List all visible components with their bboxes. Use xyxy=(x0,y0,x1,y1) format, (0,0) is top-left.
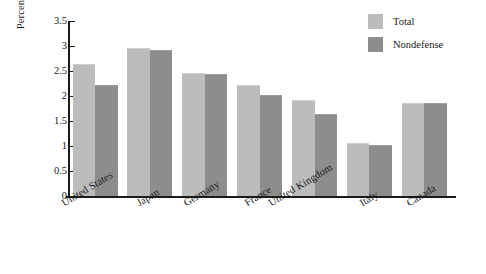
bar-nondefense xyxy=(150,50,173,196)
legend-item[interactable]: Total xyxy=(368,12,480,31)
bar-group xyxy=(182,21,227,196)
bar-group xyxy=(127,21,172,196)
bar-nondefense xyxy=(424,103,447,196)
y-axis-tick-label: 3.5 xyxy=(54,13,67,29)
y-axis-tick-label: 3 xyxy=(62,38,67,54)
y-axis-tick-label: 2.5 xyxy=(54,63,67,79)
bar-chart: Percent of GDP 00.511.522.533.5 United S… xyxy=(0,0,486,274)
bar-group xyxy=(73,21,118,196)
bar-total xyxy=(237,85,260,197)
bar-total xyxy=(402,103,425,196)
bar-total xyxy=(182,73,205,197)
legend-item[interactable]: Nondefense xyxy=(368,35,480,54)
legend-label: Total xyxy=(393,14,414,29)
legend-label: Nondefense xyxy=(393,37,443,52)
chart-legend: TotalNondefense xyxy=(368,12,480,58)
x-axis-labels: United StatesJapanGermanyFranceUnited Ki… xyxy=(68,198,454,274)
bar-nondefense xyxy=(315,114,338,196)
y-axis-tick-label: 2 xyxy=(62,88,67,104)
legend-swatch-icon xyxy=(368,37,383,52)
bar-nondefense xyxy=(260,95,283,197)
y-axis-title: Percent of GDP xyxy=(14,0,28,60)
y-axis-tick-label: 0.5 xyxy=(54,163,67,179)
bar-group xyxy=(237,21,282,196)
y-axis-tick-label: 1 xyxy=(62,138,67,154)
bar-total xyxy=(347,143,370,197)
legend-swatch-icon xyxy=(368,14,383,29)
bar-total xyxy=(127,48,150,197)
bar-total xyxy=(73,64,96,197)
y-axis-tick-label: 1.5 xyxy=(54,113,67,129)
